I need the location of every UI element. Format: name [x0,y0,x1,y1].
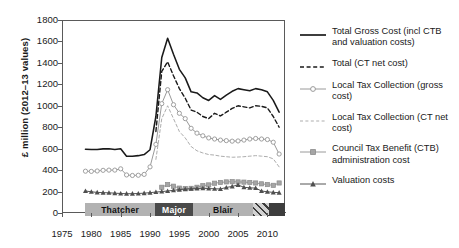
legend-item-4[interactable]: Council Tax Benefit (CTB) administration… [300,143,458,166]
legend-swatch-icon [300,113,326,125]
y-axis-tick-labels: 020040060080010001200140016001800 [28,0,58,248]
y-tick-mark [58,63,62,64]
y-tick-label: 1600 [28,36,58,46]
y-tick-label: 1200 [28,79,58,89]
legend-label: Valuation costs [332,175,394,186]
pm-band-blair: Blair [193,203,252,216]
legend-label: Local Tax Collection (gross cost) [332,80,458,103]
legend-swatch-icon [300,176,326,188]
y-tick-label: 200 [28,187,58,197]
y-tick-mark [58,170,62,171]
y-tick-mark [58,106,62,107]
chart-figure: £ million (2012–13 values) 0200400600800… [0,0,459,248]
legend-item-1[interactable]: Total (CT net cost) [300,58,458,71]
legend-label: Total Gross Cost (incl CTB and valuation… [332,26,458,49]
pm-band-transition [269,203,285,216]
y-tick-label: 1400 [28,58,58,68]
x-tick-mark [238,213,239,217]
legend-label: Council Tax Benefit (CTB) administration… [332,143,458,166]
legend-swatch-icon [300,27,326,39]
legend-item-3[interactable]: Local Tax Collection (CT net cost) [300,112,458,135]
legend-label: Total (CT net cost) [332,58,408,69]
x-tick-mark [121,213,122,217]
y-tick-mark [58,149,62,150]
x-tick-mark [62,213,63,217]
y-tick-mark [58,192,62,193]
x-tick-mark [91,213,92,217]
x-tick-mark [267,213,268,217]
legend-label: Local Tax Collection (CT net cost) [332,112,458,135]
legend-swatch-icon [300,81,326,93]
x-tick-mark [209,213,210,217]
y-tick-mark [58,84,62,85]
series-2 [83,88,281,178]
legend-item-0[interactable]: Total Gross Cost (incl CTB and valuation… [300,26,458,49]
pm-band-major: Major [155,203,194,216]
x-tick-mark [179,213,180,217]
y-tick-mark [58,20,62,21]
chart-legend: Total Gross Cost (incl CTB and valuation… [300,26,458,197]
y-tick-label: 800 [28,122,58,132]
y-tick-mark [58,127,62,128]
x-tick-mark [150,213,151,217]
legend-item-5[interactable]: Valuation costs [300,175,458,188]
x-tick-label: 2010 [247,228,287,239]
y-tick-mark [58,41,62,42]
y-tick-label: 0 [28,208,58,218]
y-tick-label: 600 [28,144,58,154]
y-tick-label: 1800 [28,15,58,25]
legend-swatch-icon [300,59,326,71]
y-tick-label: 400 [28,165,58,175]
chart-series-canvas [62,20,285,213]
y-tick-label: 1000 [28,101,58,111]
legend-item-2[interactable]: Local Tax Collection (gross cost) [300,80,458,103]
legend-swatch-icon [300,144,326,156]
